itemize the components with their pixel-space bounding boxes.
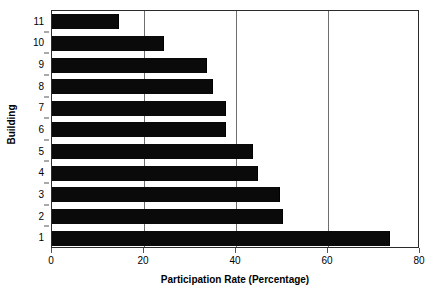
y-tick-label-10: 10 xyxy=(33,37,44,48)
y-tick-label-6: 6 xyxy=(38,124,44,135)
bar-building-9 xyxy=(52,58,207,73)
y-tick-mark xyxy=(44,139,49,140)
y-tick-label-5: 5 xyxy=(38,145,44,156)
bar-row xyxy=(52,227,420,249)
y-tick-label-3: 3 xyxy=(38,188,44,199)
y-tick-mark xyxy=(44,96,49,97)
plot-area xyxy=(51,10,419,248)
bar-building-11 xyxy=(52,14,119,29)
bar-row xyxy=(52,206,420,228)
y-tick-label-2: 2 xyxy=(38,210,44,221)
x-tick-mark-60 xyxy=(327,248,328,253)
y-tick-mark xyxy=(44,226,49,227)
y-tick-mark xyxy=(44,118,49,119)
y-tick-mark xyxy=(44,74,49,75)
y-axis-tick-labels: 1110987654321 xyxy=(22,10,49,248)
bar-row xyxy=(52,98,420,120)
y-tick-mark xyxy=(44,161,49,162)
bar-row xyxy=(52,33,420,55)
y-tick-label-9: 9 xyxy=(38,59,44,70)
bar-row xyxy=(52,11,420,33)
bar-building-2 xyxy=(52,209,283,224)
bar-chart: Building 1110987654321 020406080 Partici… xyxy=(0,0,437,296)
y-tick-mark xyxy=(44,183,49,184)
bar-building-8 xyxy=(52,79,213,94)
y-tick-label-7: 7 xyxy=(38,102,44,113)
x-tick-label-20: 20 xyxy=(137,255,148,266)
x-tick-mark-40 xyxy=(235,248,236,253)
bar-building-3 xyxy=(52,187,280,202)
bar-building-5 xyxy=(52,144,253,159)
y-tick-mark xyxy=(44,204,49,205)
y-tick-label-11: 11 xyxy=(34,15,44,26)
y-tick-label-1: 1 xyxy=(38,232,44,243)
y-tick-mark xyxy=(44,31,49,32)
x-axis-title: Participation Rate (Percentage) xyxy=(51,274,419,285)
bar-row xyxy=(52,119,420,141)
y-axis-title-label: Building xyxy=(6,104,17,144)
bar-row xyxy=(52,184,420,206)
bar-building-1 xyxy=(52,231,390,246)
y-tick-label-4: 4 xyxy=(38,167,44,178)
x-tick-label-40: 40 xyxy=(229,255,240,266)
x-tick-mark-80 xyxy=(419,248,420,253)
bar-building-7 xyxy=(52,101,226,116)
y-tick-mark xyxy=(44,53,49,54)
bar-building-10 xyxy=(52,36,164,51)
bar-row xyxy=(52,162,420,184)
x-tick-label-60: 60 xyxy=(321,255,332,266)
bar-row xyxy=(52,76,420,98)
y-tick-label-8: 8 xyxy=(38,80,44,91)
bar-building-4 xyxy=(52,166,258,181)
x-tick-mark-20 xyxy=(143,248,144,253)
x-tick-mark-0 xyxy=(51,248,52,253)
y-axis-title: Building xyxy=(0,0,22,248)
bar-row xyxy=(52,54,420,76)
bar-building-6 xyxy=(52,122,226,137)
x-axis-ticks: 020406080 xyxy=(51,248,419,268)
bar-row xyxy=(52,141,420,163)
x-tick-label-0: 0 xyxy=(48,255,54,266)
x-tick-label-80: 80 xyxy=(413,255,424,266)
